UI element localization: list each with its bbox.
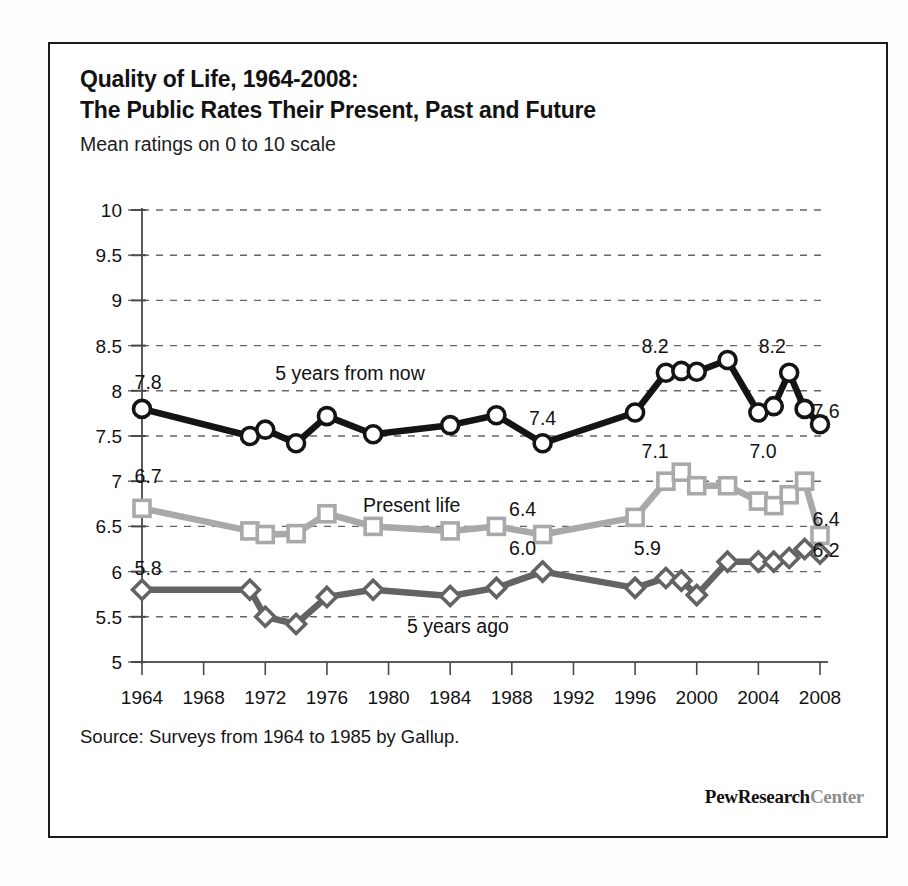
brand-center: Center xyxy=(810,786,864,807)
data-point-marker xyxy=(134,400,151,417)
source-note: Source: Surveys from 1964 to 1985 by Gal… xyxy=(80,726,864,748)
x-tick-labels: 1964196819721976198019841988199219962000… xyxy=(121,687,841,708)
x-tick-label: 1972 xyxy=(244,687,286,708)
x-tick-label: 1968 xyxy=(182,687,224,708)
x-tick-label: 2000 xyxy=(676,687,718,708)
data-point-marker xyxy=(365,426,382,443)
point-value-label: 5.9 xyxy=(634,537,661,559)
series-annotation: 5 years ago xyxy=(407,615,509,637)
x-tick-label: 2004 xyxy=(737,687,780,708)
data-point-marker xyxy=(133,580,152,599)
brand-research: Research xyxy=(738,786,810,807)
y-tick-label: 8.5 xyxy=(96,336,122,357)
x-tick-label: 1980 xyxy=(367,687,409,708)
data-point-marker xyxy=(442,417,459,434)
data-point-marker xyxy=(766,498,782,514)
chart-title-line-1: Quality of Life, 1964-2008: xyxy=(80,64,866,95)
series-annotation: 5 years from now xyxy=(275,362,425,384)
chart-title-line-2: The Public Rates Their Present, Past and… xyxy=(80,95,866,126)
series-annotation: Present life xyxy=(363,494,461,516)
title-block: Quality of Life, 1964-2008: The Public R… xyxy=(80,64,866,158)
data-point-marker xyxy=(720,478,736,494)
x-tick-label: 1976 xyxy=(306,687,348,708)
data-point-marker xyxy=(673,464,689,480)
pew-research-center-logo: PewResearchCenter xyxy=(705,786,864,808)
data-point-marker xyxy=(689,478,705,494)
series-5-years-from-now xyxy=(134,352,829,452)
y-tick-label: 7 xyxy=(111,471,122,492)
data-point-marker xyxy=(626,578,645,597)
data-point-marker xyxy=(318,408,335,425)
data-point-marker xyxy=(319,506,335,522)
point-value-label: 7.6 xyxy=(813,400,840,422)
chart-subtitle: Mean ratings on 0 to 10 scale xyxy=(80,131,866,158)
data-point-marker xyxy=(488,407,505,424)
brand-pew: Pew xyxy=(705,786,738,807)
data-point-marker xyxy=(533,562,552,581)
y-tick-label: 9.5 xyxy=(96,245,122,266)
data-point-marker xyxy=(257,421,274,438)
y-tick-labels: 55.566.577.588.599.510 xyxy=(96,200,122,673)
data-point-marker xyxy=(750,493,766,509)
point-value-label: 6.4 xyxy=(813,508,840,530)
series-present-life xyxy=(134,464,828,543)
point-value-label: 6.0 xyxy=(509,537,536,559)
point-value-label: 7.8 xyxy=(135,371,162,393)
data-point-marker xyxy=(796,400,813,417)
data-point-marker xyxy=(288,526,304,542)
figure-frame: Quality of Life, 1964-2008: The Public R… xyxy=(48,42,888,838)
x-tick-label: 1964 xyxy=(121,687,164,708)
data-point-marker xyxy=(781,364,798,381)
x-tick-label: 2008 xyxy=(799,687,841,708)
data-point-marker xyxy=(781,487,797,503)
point-value-label: 6.4 xyxy=(509,498,536,520)
data-point-marker xyxy=(658,473,674,489)
point-value-label: 6.7 xyxy=(135,465,162,487)
data-point-marker xyxy=(242,523,258,539)
data-point-marker xyxy=(627,509,643,525)
axes-group xyxy=(131,208,828,675)
x-tick-label: 1992 xyxy=(552,687,594,708)
footer-block: Source: Surveys from 1964 to 1985 by Gal… xyxy=(80,726,864,812)
y-tick-label: 5 xyxy=(111,652,122,673)
point-value-label: 7.1 xyxy=(642,440,669,462)
data-point-marker xyxy=(797,473,813,489)
data-point-marker xyxy=(627,404,644,421)
series-annotations: 5 years from nowPresent life5 years ago xyxy=(275,362,509,637)
data-point-marker xyxy=(534,435,551,452)
data-point-marker xyxy=(134,500,150,516)
point-value-label: 8.2 xyxy=(642,335,669,357)
point-value-label: 5.8 xyxy=(135,557,162,579)
x-tick-label: 1996 xyxy=(614,687,656,708)
plot-area: 55.566.577.588.599.510 19641968197219761… xyxy=(50,192,886,772)
data-point-marker xyxy=(487,578,506,597)
data-point-marker xyxy=(364,580,383,599)
data-point-marker xyxy=(288,435,305,452)
data-point-marker xyxy=(442,523,458,539)
point-value-label: 8.2 xyxy=(759,335,786,357)
data-point-marker xyxy=(765,398,782,415)
x-tick-label: 1988 xyxy=(491,687,533,708)
y-tick-label: 6 xyxy=(111,562,122,583)
data-point-marker xyxy=(257,527,273,543)
y-tick-label: 9 xyxy=(111,290,122,311)
point-value-label: 7.4 xyxy=(529,407,556,429)
data-point-marker xyxy=(535,527,551,543)
data-point-marker xyxy=(688,363,705,380)
y-tick-label: 10 xyxy=(101,200,122,221)
data-point-marker xyxy=(365,518,381,534)
y-tick-label: 6.5 xyxy=(96,516,122,537)
point-value-label: 6.2 xyxy=(813,539,840,561)
y-tick-label: 5.5 xyxy=(96,607,122,628)
x-tick-label: 1984 xyxy=(429,687,472,708)
line-chart-svg: 55.566.577.588.599.510 19641968197219761… xyxy=(50,192,886,772)
data-series-group xyxy=(133,352,830,634)
data-point-marker xyxy=(488,518,504,534)
data-point-marker xyxy=(719,352,736,369)
data-point-marker xyxy=(441,587,460,606)
y-tick-label: 8 xyxy=(111,381,122,402)
point-value-label: 7.0 xyxy=(749,440,776,462)
y-tick-label: 7.5 xyxy=(96,426,122,447)
